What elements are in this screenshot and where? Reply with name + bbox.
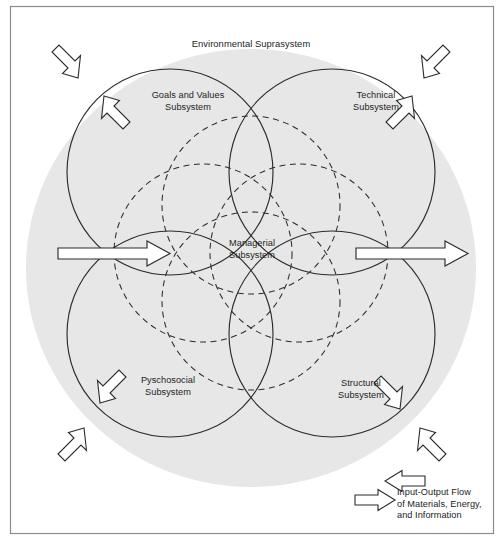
legend-caption: Input-Output Flow of Materials, Energy, … (397, 487, 501, 522)
legend-arrow-right-icon (355, 490, 395, 511)
arrow-corner-bottom-left (58, 428, 87, 461)
label-psychosocial-subsystem: Pyschosocial Subsystem (118, 375, 218, 398)
label-technical-subsystem: Technical Subsystem (330, 90, 422, 113)
label-environmental-suprasystem: Environmental Suprasystem (0, 38, 502, 50)
arrow-corner-top-right (422, 45, 451, 78)
figure-canvas: Environmental Suprasystem Goals and Valu… (0, 0, 502, 546)
arrow-corner-top-left (52, 45, 81, 78)
systems-diagram (0, 0, 502, 546)
label-managerial-subsystem: Managerial Subsystem (202, 238, 302, 261)
environmental-suprasystem-region (26, 49, 476, 487)
label-goals-and-values-subsystem: Goals and Values Subsystem (132, 90, 244, 113)
arrow-corner-bottom-right (418, 428, 447, 461)
label-structural-subsystem: Structural Subsystem (318, 378, 404, 401)
